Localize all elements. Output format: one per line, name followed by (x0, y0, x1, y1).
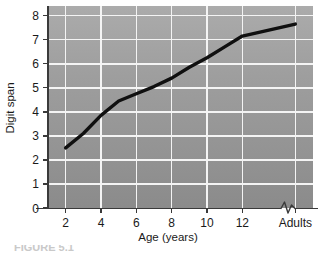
x-tick-label: 8 (168, 216, 175, 230)
y-tick-label: 5 (32, 81, 39, 95)
x-tick-label: 6 (133, 216, 140, 230)
y-tick-label: 7 (32, 33, 39, 47)
plot-background (48, 6, 313, 208)
y-axis-title: Digit span (4, 82, 16, 133)
y-tick-label: 0 (32, 202, 39, 216)
x-axis-title: Age (years) (138, 231, 198, 243)
digit-span-line-chart: 012345678 24681012Adults Age (years) Dig… (0, 0, 333, 253)
y-axis-tick-labels: 012345678 (32, 9, 39, 215)
y-axis-ticks (43, 16, 48, 208)
y-tick-label: 1 (32, 177, 39, 191)
y-tick-label: 6 (32, 57, 39, 71)
y-tick-label: 4 (32, 105, 39, 119)
y-tick-label: 2 (32, 153, 39, 167)
x-tick-label: 12 (236, 216, 250, 230)
x-tick-label: 2 (62, 216, 69, 230)
figure-container: 012345678 24681012Adults Age (years) Dig… (0, 0, 333, 253)
x-tick-label: Adults (279, 216, 312, 230)
x-tick-label: 4 (98, 216, 105, 230)
y-tick-label: 3 (32, 129, 39, 143)
x-axis-tick-labels: 24681012Adults (62, 216, 312, 230)
figure-caption-sliver: FIGURE 5.1 (0, 245, 333, 253)
y-tick-label: 8 (32, 9, 39, 23)
figure-caption-text: FIGURE 5.1 (14, 245, 74, 253)
x-tick-label: 10 (200, 216, 214, 230)
